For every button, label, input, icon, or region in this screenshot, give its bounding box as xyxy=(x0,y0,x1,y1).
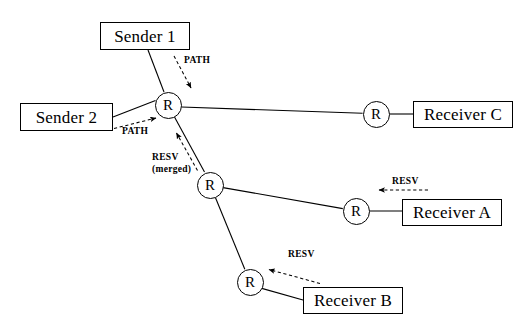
router-receiver-a-label: R xyxy=(351,204,361,219)
path-label-sender1-text: PATH xyxy=(184,55,210,65)
resv-label-receiver-b: RESV xyxy=(288,249,315,261)
resv-label-receiver-a: RESV xyxy=(392,176,419,188)
receiver-b-box[interactable]: Receiver B xyxy=(303,287,403,314)
router-middle-label: R xyxy=(205,178,215,193)
resv-merged-label-text: RESV xyxy=(152,152,179,162)
receiver-a-box[interactable]: Receiver A xyxy=(402,199,502,226)
resv-arrow-receiver-b xyxy=(269,270,320,284)
receiver-b-label: Receiver B xyxy=(314,292,392,309)
router-bottom-label: R xyxy=(245,275,255,290)
router-receiver-a[interactable]: R xyxy=(343,198,370,225)
router-middle[interactable]: R xyxy=(197,172,224,199)
sender-2-label: Sender 2 xyxy=(36,109,98,126)
sender-1-label: Sender 1 xyxy=(114,28,176,45)
link-sender1-rtop xyxy=(148,50,164,92)
resv-merged-sublabel: (merged) xyxy=(152,164,191,176)
path-label-sender2-text: PATH xyxy=(122,126,148,136)
resv-merged-label: RESV (merged) xyxy=(152,152,191,176)
router-bottom[interactable]: R xyxy=(237,269,264,296)
path-label-sender2: PATH xyxy=(122,126,148,138)
rsvp-diagram: Sender 1 Sender 2 Receiver C Receiver A … xyxy=(0,0,529,326)
router-receiver-c-label: R xyxy=(371,107,381,122)
sender-1-box[interactable]: Sender 1 xyxy=(100,22,190,50)
path-label-sender1: PATH xyxy=(184,55,210,67)
link-rbottom-receiver-b xyxy=(262,288,303,300)
router-receiver-c[interactable]: R xyxy=(363,101,390,128)
receiver-c-label: Receiver C xyxy=(424,106,502,123)
diagram-canvas xyxy=(0,0,529,326)
resv-label-receiver-a-text: RESV xyxy=(392,176,419,186)
link-rmid-rbottom xyxy=(216,198,245,269)
link-rmid-router-a xyxy=(223,188,343,209)
sender-2-box[interactable]: Sender 2 xyxy=(20,103,113,131)
router-top[interactable]: R xyxy=(155,92,182,119)
link-sender2-rtop xyxy=(113,101,156,118)
link-rtop-router-c xyxy=(181,107,362,113)
router-top-label: R xyxy=(163,98,173,113)
receiver-c-box[interactable]: Receiver C xyxy=(413,101,513,128)
receiver-a-label: Receiver A xyxy=(413,204,491,221)
resv-label-receiver-b-text: RESV xyxy=(288,249,315,259)
